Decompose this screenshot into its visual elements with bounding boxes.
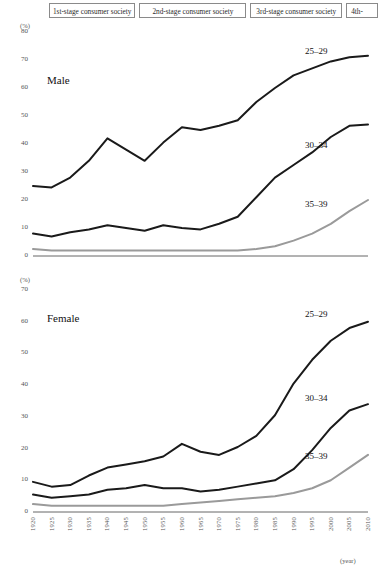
x-tick-label: 1955 xyxy=(159,517,166,531)
series-label-30-34: 30–34 xyxy=(305,393,328,403)
chart-page: { "stages": { "items": [ {"id": "stage-1… xyxy=(0,0,378,567)
series-label-35-39: 35–39 xyxy=(305,199,328,209)
series-line-35-39 xyxy=(33,455,368,506)
y-tick-label: 70 xyxy=(8,55,28,63)
y-tick-label: 20 xyxy=(8,195,28,203)
x-tick-label: 1975 xyxy=(234,517,241,531)
x-tick-label: 2010 xyxy=(364,517,371,531)
stage-box-2: 2nd-stage consumer society xyxy=(139,3,246,18)
stage-bar: 1st-stage consumer society 2nd-stage con… xyxy=(0,3,378,20)
x-tick-label: 1970 xyxy=(215,517,222,531)
stage-box-3: 3rd-stage consumer society xyxy=(250,3,342,18)
plot-area-male xyxy=(0,22,378,280)
series-label-30-34: 30–34 xyxy=(305,140,328,150)
series-line-25-29 xyxy=(33,322,368,487)
x-tick-label: 1920 xyxy=(29,517,36,531)
y-tick-label: 0 xyxy=(8,507,28,515)
y-tick-label: 70 xyxy=(8,285,28,293)
chart-panel-male: (%) Male 80706050403020100 25–2930–3435–… xyxy=(0,22,378,280)
x-tick-label: 1940 xyxy=(103,517,110,531)
x-tick-label: 1965 xyxy=(197,517,204,531)
series-label-35-39: 35–39 xyxy=(305,451,328,461)
y-tick-label: 40 xyxy=(8,380,28,388)
y-tick-label: 40 xyxy=(8,139,28,147)
series-line-25-29 xyxy=(33,56,368,188)
x-tick-label: 1950 xyxy=(141,517,148,531)
y-tick-label: 50 xyxy=(8,111,28,119)
y-tick-label: 30 xyxy=(8,167,28,175)
x-tick-label: 1990 xyxy=(290,517,297,531)
x-unit-label: (year) xyxy=(340,557,356,564)
y-tick-label: 80 xyxy=(8,27,28,35)
series-label-25-29: 25–29 xyxy=(305,46,328,56)
x-tick-label: 2005 xyxy=(345,517,352,531)
y-tick-label: 20 xyxy=(8,444,28,452)
x-tick-label: 1995 xyxy=(308,517,315,531)
y-tick-label: 10 xyxy=(8,223,28,231)
y-tick-label: 60 xyxy=(8,83,28,91)
y-tick-label: 60 xyxy=(8,317,28,325)
y-tick-label: 30 xyxy=(8,412,28,420)
x-tick-label: 1925 xyxy=(48,517,55,531)
y-tick-label: 50 xyxy=(8,348,28,356)
x-tick-label: 1935 xyxy=(85,517,92,531)
x-tick-label: 2000 xyxy=(327,517,334,531)
stage-box-4: 4th- xyxy=(346,3,378,18)
x-tick-label: 1985 xyxy=(271,517,278,531)
x-tick-label: 1945 xyxy=(122,517,129,531)
y-tick-label: 0 xyxy=(8,251,28,259)
x-tick-label: 1960 xyxy=(178,517,185,531)
x-tick-label: 1980 xyxy=(252,517,259,531)
y-tick-label: 10 xyxy=(8,475,28,483)
plot-area-female xyxy=(0,276,378,567)
x-tick-label: 1930 xyxy=(66,517,73,531)
series-label-25-29: 25–29 xyxy=(305,309,328,319)
stage-box-1: 1st-stage consumer society xyxy=(49,3,135,18)
chart-panel-female: (%) Female 706050403020100 25–2930–3435–… xyxy=(0,276,378,567)
